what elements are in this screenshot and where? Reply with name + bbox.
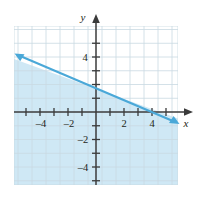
y-axis-label: y xyxy=(80,11,86,23)
coordinate-plane-svg: x y –4 –2 2 4 4 –2 –4 xyxy=(0,0,204,205)
x-tick-label--2: –2 xyxy=(63,118,75,129)
inequality-graph-figure: x y –4 –2 2 4 4 –2 –4 xyxy=(0,0,204,205)
x-axis-label: x xyxy=(183,117,189,129)
x-tick-label--4: –4 xyxy=(35,118,47,129)
y-tick-label--2: –2 xyxy=(77,134,89,145)
y-tick-label-4: 4 xyxy=(82,52,88,63)
x-tick-label-2: 2 xyxy=(121,118,126,129)
y-tick-label--4: –4 xyxy=(77,162,89,173)
x-tick-label-4: 4 xyxy=(149,118,155,129)
